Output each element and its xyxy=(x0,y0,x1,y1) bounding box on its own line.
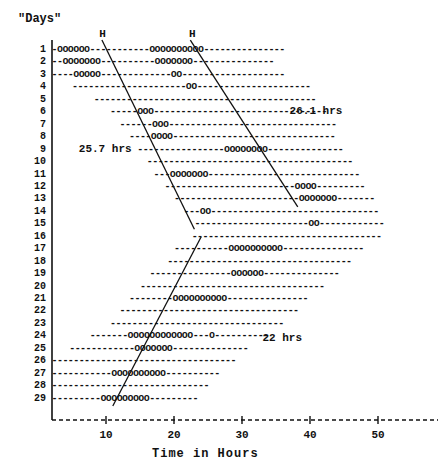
axis-and-fit-lines xyxy=(0,0,441,475)
fit-line xyxy=(113,237,201,406)
fit-line xyxy=(102,40,194,229)
fit-line xyxy=(190,40,297,207)
x-axis-title: Time in Hours xyxy=(152,447,259,461)
actogram-chart: "Days" HH 123456789101112131415161718192… xyxy=(0,0,441,475)
